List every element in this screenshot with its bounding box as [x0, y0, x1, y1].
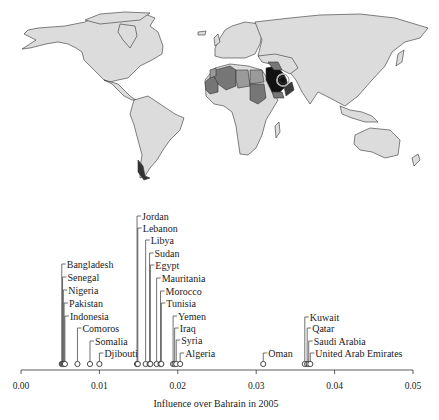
x-tick-label: 0.03	[248, 381, 265, 391]
country-label: Kuwait	[310, 312, 340, 323]
australia	[354, 128, 400, 158]
x-tick-label: 0.02	[169, 381, 186, 391]
country-label: Jordan	[142, 211, 169, 222]
x-tick-label: 0.05	[405, 381, 422, 391]
country-label: Mauritania	[162, 273, 206, 284]
country-label: Bangladesh	[67, 259, 114, 270]
country-label: Oman	[268, 348, 292, 359]
x-tick-label: 0.00	[13, 381, 30, 391]
country-label: Lebanon	[143, 223, 178, 234]
data-points	[59, 361, 313, 366]
data-point	[87, 361, 92, 366]
iceland	[198, 31, 206, 35]
europe	[215, 22, 262, 58]
country-labels: BangladeshSenegalNigeriaPakistanIndonesi…	[67, 211, 403, 359]
country-label: Somalia	[95, 336, 128, 347]
data-point	[308, 361, 313, 366]
country-label: Egypt	[155, 260, 179, 271]
data-point	[148, 361, 153, 366]
new-zealand	[412, 154, 420, 166]
country-yemen	[272, 92, 284, 98]
madagascar	[275, 122, 280, 138]
north-america	[22, 14, 163, 82]
southeast-asia	[340, 106, 378, 122]
country-label: Pakistan	[69, 298, 103, 309]
country-egypt	[250, 70, 264, 84]
country-label: Algeria	[185, 348, 216, 359]
country-morocco	[210, 68, 216, 78]
country-label: Indonesia	[70, 311, 109, 322]
country-label: Libya	[151, 235, 175, 246]
x-tick-label: 0.01	[91, 381, 108, 391]
country-label: Comoros	[82, 323, 119, 334]
data-point	[135, 361, 140, 366]
country-label: Yemen	[178, 311, 206, 322]
japan	[396, 50, 404, 66]
country-label: United Arab Emirates	[315, 348, 402, 359]
country-label: Iraq	[180, 323, 196, 334]
influence-plot: BangladeshSenegalNigeriaPakistanIndonesi…	[0, 200, 439, 420]
data-point	[261, 361, 266, 366]
country-label: Sudan	[155, 248, 180, 259]
country-libya	[236, 70, 250, 88]
country-label: Qatar	[312, 323, 335, 334]
data-point	[159, 361, 164, 366]
world-map	[0, 0, 439, 200]
x-tick-label: 0.04	[326, 381, 343, 391]
country-label: Morocco	[166, 286, 202, 297]
data-point	[178, 361, 183, 366]
central-america	[104, 80, 136, 100]
x-axis-label: Influence over Bahrain in 2005	[154, 398, 279, 409]
country-label: Tunisia	[166, 298, 196, 309]
country-label: Djibouti	[104, 348, 138, 359]
data-point	[62, 361, 67, 366]
data-point	[75, 361, 80, 366]
data-point	[97, 361, 102, 366]
country-label: Saudi Arabia	[314, 336, 366, 347]
x-axis: 0.000.010.020.030.040.05	[13, 370, 422, 391]
country-label: Nigeria	[68, 285, 99, 296]
country-label: Senegal	[68, 272, 100, 283]
country-label: Syria	[181, 335, 203, 346]
